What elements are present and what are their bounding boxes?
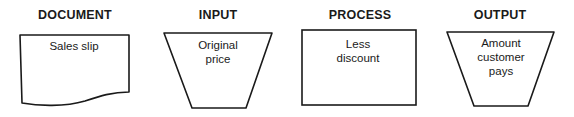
- process-label-line: Less: [337, 37, 380, 51]
- output-label-line: customer: [477, 50, 524, 64]
- process-heading: PROCESS: [329, 8, 392, 22]
- document-label: Sales slip: [49, 39, 98, 53]
- document-label-line: Sales slip: [49, 39, 98, 53]
- output-label-line: Amount: [477, 36, 524, 50]
- output-heading: OUTPUT: [474, 8, 527, 22]
- process-label-line: discount: [337, 51, 380, 65]
- input-label-line: price: [198, 52, 238, 66]
- document-heading: DOCUMENT: [38, 8, 112, 22]
- input-heading: INPUT: [199, 8, 238, 22]
- input-label-line: Original: [198, 38, 238, 52]
- input-label: Original price: [198, 38, 238, 66]
- output-label: Amount customer pays: [477, 36, 524, 78]
- output-label-line: pays: [477, 64, 524, 78]
- process-label: Less discount: [337, 37, 380, 65]
